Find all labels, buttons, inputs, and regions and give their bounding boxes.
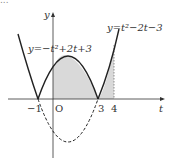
y-axis-label: y (43, 9, 50, 20)
curve-g-label: y=t²−2t−3 (106, 22, 163, 33)
graph-figure: ... y t O −1 3 4 y=−t²+2t+3 y=t²−2t−3 (0, 0, 169, 162)
curve-f-label: y=−t²+2t+3 (27, 43, 92, 54)
tick-4: 4 (111, 103, 117, 114)
tick-neg1: −1 (27, 103, 42, 114)
t-axis-label: t (159, 103, 164, 114)
graph-svg: y t O −1 3 4 y=−t²+2t+3 y=t²−2t−3 (0, 0, 169, 162)
tick-3: 3 (98, 103, 104, 114)
dashed-parabola-segment (38, 99, 98, 142)
y-axis-arrow (51, 12, 55, 17)
t-axis-arrow (160, 97, 165, 101)
origin-label: O (55, 103, 63, 114)
